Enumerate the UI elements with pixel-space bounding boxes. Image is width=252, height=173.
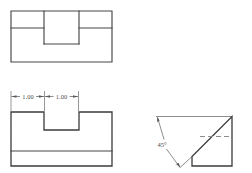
arrowhead-right-outer [73,95,78,98]
dimension-label-left: 1.00 [22,93,34,100]
top-view [11,11,112,62]
front-view-outline [11,112,112,166]
dimension-label-right: 1.00 [56,93,68,100]
engineering-drawing-sheet: 1.00 1.00 45° [0,0,252,173]
angle-label: 45° [157,141,167,148]
arrowhead-left-inner [39,95,44,98]
angle-leader-vertex [180,157,192,168]
front-view-dimensions: 1.00 1.00 [11,91,79,111]
top-view-outline [11,11,112,62]
front-view [11,112,112,166]
arrowhead-right-inner [45,95,50,98]
arrowhead-left-outer [12,95,17,98]
drawing-canvas: 1.00 1.00 45° [0,0,252,173]
right-side-view: 45° [155,117,232,168]
angle-arrowhead-top [157,117,159,122]
right-view-outline [192,117,232,167]
